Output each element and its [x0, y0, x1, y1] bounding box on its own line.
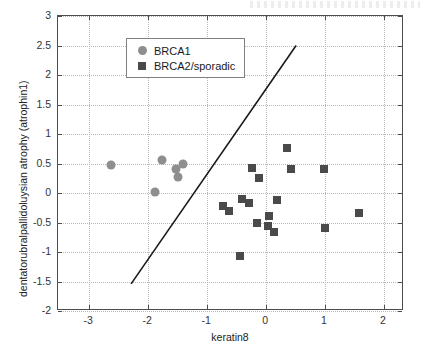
legend-label-brca2-sporadic: BRCA2/sporadic	[154, 60, 235, 72]
y-tick-label: 1	[45, 127, 51, 139]
scan-artifact	[250, 1, 420, 8]
data-point-brca2-sporadic	[236, 252, 244, 260]
data-point-brca1	[151, 187, 160, 196]
x-axis-label: keratin8	[57, 331, 403, 343]
data-point-brca2-sporadic	[270, 228, 278, 236]
square-marker-icon	[133, 62, 151, 70]
y-tick-label: -1.5	[33, 275, 51, 287]
data-point-brca2-sporadic	[355, 209, 363, 217]
data-point-brca2-sporadic	[321, 224, 329, 232]
y-tick-label: 2.5	[36, 39, 51, 51]
data-point-brca2-sporadic	[265, 212, 273, 220]
data-point-brca2-sporadic	[320, 165, 328, 173]
data-point-brca2-sporadic	[253, 219, 261, 227]
y-tick-label: 0	[45, 186, 51, 198]
data-point-brca2-sporadic	[225, 207, 233, 215]
y-tick-label: -1	[42, 245, 51, 257]
x-tick-label: -1	[201, 314, 210, 326]
x-tick-label: -2	[143, 314, 152, 326]
y-tick-label: 1.5	[36, 98, 51, 110]
legend-label-brca1: BRCA1	[154, 45, 191, 57]
y-tick-mark	[398, 311, 402, 312]
y-tick-label: 3	[45, 9, 51, 21]
data-point-brca1	[158, 155, 167, 164]
data-point-brca2-sporadic	[273, 196, 281, 204]
data-point-brca2-sporadic	[248, 164, 256, 172]
data-point-brca1	[107, 161, 116, 170]
data-point-brca1	[174, 173, 183, 182]
y-tick-label: -2	[42, 304, 51, 316]
data-point-brca1	[178, 159, 187, 168]
legend-item-brca1: BRCA1	[133, 43, 235, 58]
plot-area: BRCA1 BRCA2/sporadic	[57, 15, 403, 310]
y-tick-label: -0.5	[33, 216, 51, 228]
y-tick-label: 2	[45, 68, 51, 80]
x-tick-label: -3	[84, 314, 93, 326]
data-point-brca2-sporadic	[245, 199, 253, 207]
x-tick-label: 1	[321, 314, 327, 326]
y-tick-label: 0.5	[36, 157, 51, 169]
data-point-brca2-sporadic	[287, 165, 295, 173]
y-axis-label: dentatorubralpallidoluysian atrophy (atr…	[17, 80, 29, 297]
legend: BRCA1 BRCA2/sporadic	[126, 38, 245, 78]
legend-item-brca2-sporadic: BRCA2/sporadic	[133, 58, 235, 73]
gridline-horizontal	[58, 311, 402, 312]
y-tick-mark	[58, 311, 62, 312]
data-point-brca2-sporadic	[255, 174, 263, 182]
data-point-brca2-sporadic	[283, 144, 291, 152]
x-tick-label: 0	[262, 314, 268, 326]
x-tick-label: 2	[380, 314, 386, 326]
circle-marker-icon	[133, 46, 151, 55]
scatter-plot-figure: BRCA1 BRCA2/sporadic -3-2-1012 -2-1.5-1-…	[0, 0, 424, 353]
